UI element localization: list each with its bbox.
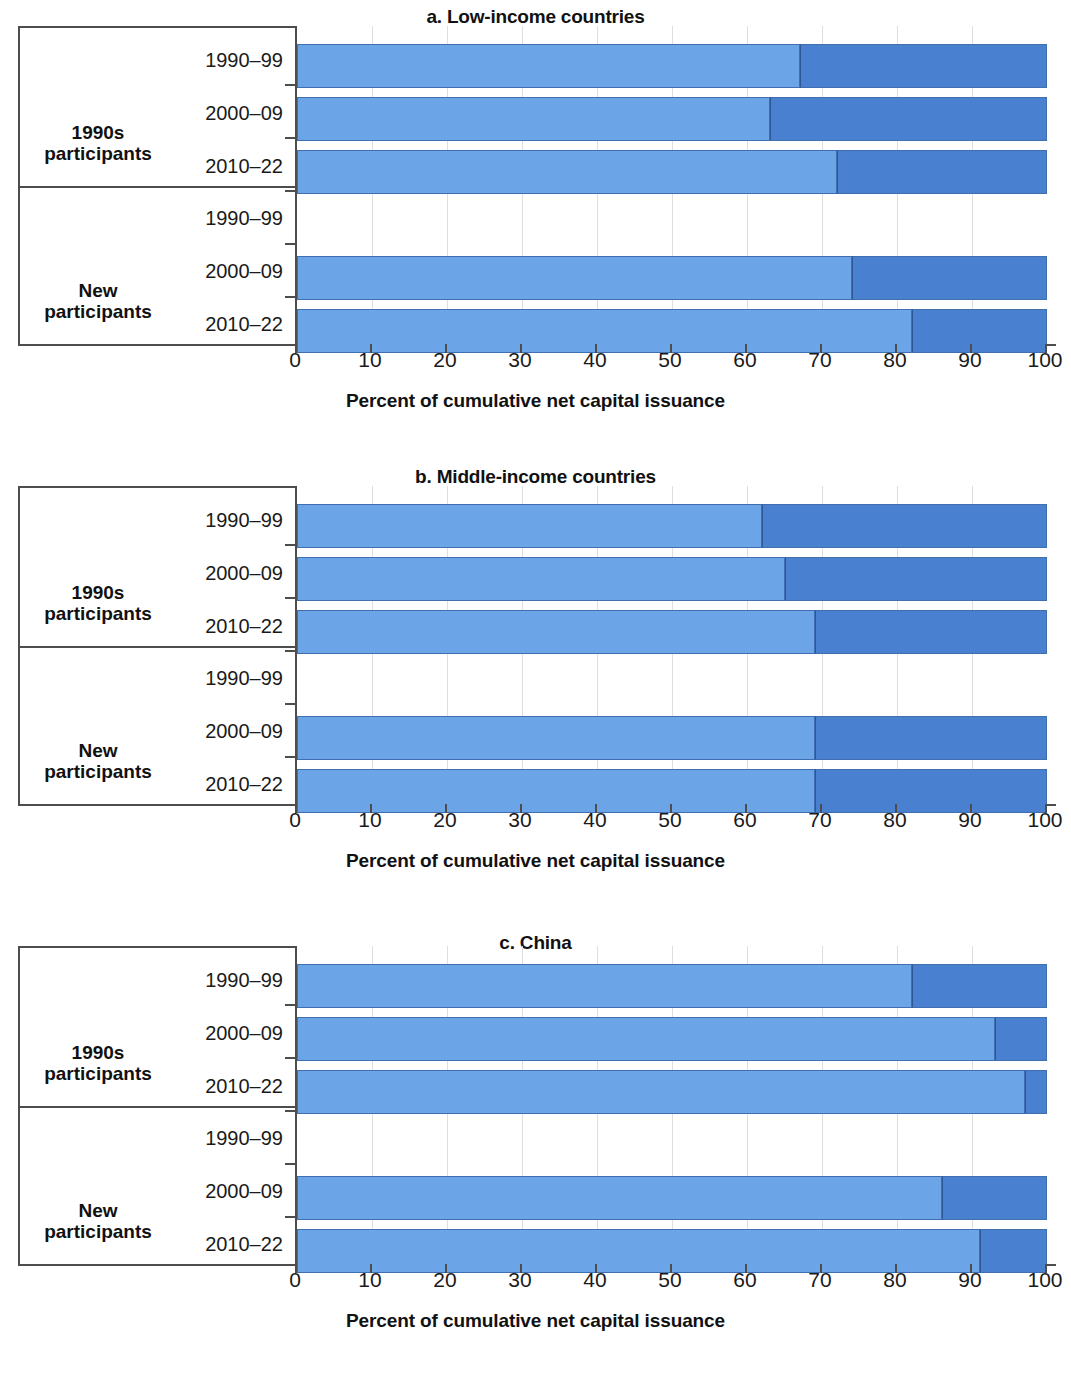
x-axis-caption: Percent of cumulative net capital issuan… [0, 850, 1071, 872]
x-tick-label: 50 [658, 348, 681, 372]
bar-row [297, 150, 1047, 194]
period-label: 2010–22 [153, 773, 283, 796]
panel-title: a. Low-income countries [0, 0, 1071, 26]
panel-title: b. Middle-income countries [0, 460, 1071, 486]
group-label-1990s-participants: 1990s participants [28, 1042, 168, 1085]
group-label-line1: New [28, 280, 168, 301]
group-divider [18, 1106, 295, 1108]
period-label: 1990–99 [153, 969, 283, 992]
axis-tick [285, 296, 295, 298]
bar-row [297, 1123, 1047, 1167]
bar-row [297, 256, 1047, 300]
group-divider [18, 186, 295, 188]
x-tick-label: 60 [733, 1268, 756, 1292]
group-label-1990s-participants: 1990s participants [28, 582, 168, 625]
group-divider [18, 646, 295, 648]
plot-area-b: 1990s participants New participants 1990… [18, 486, 1056, 806]
x-tick-label: 40 [583, 808, 606, 832]
bar-segment-dark [1025, 1070, 1048, 1114]
period-label: 1990–99 [153, 509, 283, 532]
bar-row [297, 203, 1047, 247]
group-label-line2: participants [28, 603, 168, 624]
axis-tick [285, 650, 295, 652]
x-tick-label: 90 [958, 808, 981, 832]
x-tick-label: 10 [358, 808, 381, 832]
axis-tick [285, 137, 295, 139]
bars-canvas [295, 946, 1056, 1266]
period-label: 2010–22 [153, 615, 283, 638]
x-tick-label: 0 [289, 808, 301, 832]
bar-row [297, 663, 1047, 707]
group-label-line1: 1990s [28, 582, 168, 603]
bar-segment-dark [762, 504, 1047, 548]
x-tick-label: 40 [583, 348, 606, 372]
bar-segment-dark [815, 610, 1048, 654]
group-label-line1: 1990s [28, 122, 168, 143]
x-tick-label: 80 [883, 1268, 906, 1292]
group-label-line2: participants [28, 143, 168, 164]
period-label: 2000–09 [153, 562, 283, 585]
bar-segment-dark [815, 716, 1048, 760]
axis-tick [285, 84, 295, 86]
bar-row [297, 716, 1047, 760]
period-label: 2000–09 [153, 260, 283, 283]
x-tick-label: 50 [658, 1268, 681, 1292]
x-tick-label: 100 [1027, 348, 1062, 372]
panel-middle-income: b. Middle-income countries 1990s partici… [0, 460, 1071, 920]
bar-segment-light [297, 97, 770, 141]
period-label: 2000–09 [153, 1022, 283, 1045]
bar-segment-light [297, 150, 837, 194]
bar-row [297, 610, 1047, 654]
period-label: 2010–22 [153, 1233, 283, 1256]
bar-segment-light [297, 504, 762, 548]
group-label-line2: participants [28, 1221, 168, 1242]
bars-canvas [295, 26, 1056, 346]
group-label-line2: participants [28, 1063, 168, 1084]
plot-area-a: 1990s participants New participants 1990… [18, 26, 1056, 346]
x-tick-label: 60 [733, 808, 756, 832]
category-label-frame: 1990s participants New participants 1990… [18, 486, 295, 806]
group-label-line2: participants [28, 301, 168, 322]
axis-tick [285, 597, 295, 599]
x-tick-label: 30 [508, 348, 531, 372]
bar-segment-dark [785, 557, 1048, 601]
bar-segment-dark [770, 97, 1048, 141]
x-tick-label: 10 [358, 348, 381, 372]
bar-segment-dark [942, 1176, 1047, 1220]
x-tick-label: 60 [733, 348, 756, 372]
panel-china: c. China 1990s participants New particip… [0, 920, 1071, 1386]
panel-title: c. China [0, 920, 1071, 946]
group-label-1990s-participants: 1990s participants [28, 122, 168, 165]
x-tick-label: 100 [1027, 808, 1062, 832]
x-tick-label: 90 [958, 1268, 981, 1292]
group-label-line1: New [28, 1200, 168, 1221]
axis-tick [285, 703, 295, 705]
x-tick-label: 70 [808, 348, 831, 372]
bar-segment-light [297, 1017, 995, 1061]
group-label-new-participants: New participants [28, 280, 168, 323]
axis-tick [285, 1057, 295, 1059]
bar-segment-light [297, 964, 912, 1008]
axis-tick [285, 756, 295, 758]
x-tick-label: 40 [583, 1268, 606, 1292]
figure-root: a. Low-income countries 1990s participan… [0, 0, 1071, 1386]
category-label-frame: 1990s participants New participants 1990… [18, 946, 295, 1266]
period-label: 1990–99 [153, 49, 283, 72]
bar-row [297, 97, 1047, 141]
period-label: 2010–22 [153, 155, 283, 178]
period-label: 2010–22 [153, 313, 283, 336]
x-tick-label: 30 [508, 808, 531, 832]
x-tick-label: 20 [433, 1268, 456, 1292]
x-axis-c: 0102030405060708090100 [18, 1266, 1056, 1304]
x-tick-label: 100 [1027, 1268, 1062, 1292]
x-axis-b: 0102030405060708090100 [18, 806, 1056, 844]
bar-segment-light [297, 716, 815, 760]
bar-segment-dark [837, 150, 1047, 194]
group-label-new-participants: New participants [28, 1200, 168, 1243]
bar-row [297, 557, 1047, 601]
axis-tick [285, 1216, 295, 1218]
bar-row [297, 44, 1047, 88]
bar-segment-dark [852, 256, 1047, 300]
period-label: 1990–99 [153, 207, 283, 230]
x-tick-label: 30 [508, 1268, 531, 1292]
